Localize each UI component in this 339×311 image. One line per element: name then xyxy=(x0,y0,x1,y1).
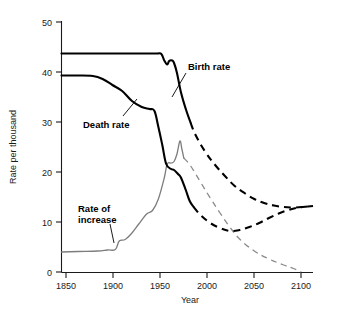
x-tick-label: 2050 xyxy=(244,281,264,291)
x-tick-label: 1900 xyxy=(103,281,123,291)
series-group xyxy=(62,53,314,272)
x-tick-labels: 1850 1900 1950 2000 2050 2100 xyxy=(56,281,311,291)
x-tick-label: 1850 xyxy=(56,281,76,291)
rate-of-increase-leader-line xyxy=(110,224,114,243)
series-annotations: Birth rate Death rate Rate of increase xyxy=(78,61,230,225)
x-tick-marks xyxy=(66,273,301,279)
annotation-leaders xyxy=(110,73,186,243)
y-tick-label: 20 xyxy=(42,168,52,178)
x-tick-label: 2000 xyxy=(197,281,217,291)
death-rate-leader-line xyxy=(123,99,137,116)
death-rate-historical-line xyxy=(62,75,194,207)
x-axis-title: Year xyxy=(181,295,199,305)
chart-canvas: 50 40 30 20 10 0 1850 1900 1950 2000 205… xyxy=(0,0,339,311)
birth-rate-leader-line xyxy=(172,73,186,97)
rate-of-increase-label-line1: Rate of xyxy=(78,203,111,214)
y-tick-marks xyxy=(56,22,62,272)
rate-of-increase-label-line2: increase xyxy=(78,214,117,225)
death-rate-label: Death rate xyxy=(83,119,129,130)
y-tick-label: 50 xyxy=(42,18,52,28)
y-tick-label: 40 xyxy=(42,68,52,78)
y-axis-title: Rate per thousand xyxy=(8,110,18,184)
rate-of-increase-projected-line xyxy=(184,158,301,272)
y-tick-label: 30 xyxy=(42,118,52,128)
birth-rate-label: Birth rate xyxy=(188,61,230,72)
death-rate-projected-line xyxy=(194,206,313,231)
x-tick-label: 2100 xyxy=(291,281,311,291)
y-tick-label: 10 xyxy=(42,218,52,228)
y-tick-label: 0 xyxy=(47,268,52,278)
axes-group xyxy=(56,21,313,278)
demographic-transition-chart: 50 40 30 20 10 0 1850 1900 1950 2000 205… xyxy=(0,0,339,311)
y-tick-labels: 50 40 30 20 10 0 xyxy=(42,18,52,278)
x-tick-label: 1950 xyxy=(150,281,170,291)
